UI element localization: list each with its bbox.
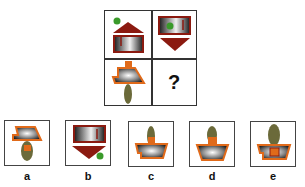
grid-cell-bottom-left (105, 59, 151, 106)
option-d-label: d (189, 170, 235, 182)
option-d-figure-icon (190, 122, 236, 168)
option-a[interactable] (4, 120, 50, 166)
option-e[interactable] (250, 121, 296, 167)
option-b-label: b (65, 170, 111, 182)
option-c-label: c (128, 170, 174, 182)
option-b-figure-icon (66, 121, 112, 167)
trapezoid-stem-figure-icon (105, 59, 151, 106)
option-d[interactable] (189, 121, 235, 167)
option-e-figure-icon (251, 122, 297, 168)
grid-cell-top-left (105, 11, 151, 58)
question-mark: ? (168, 71, 180, 94)
option-b[interactable] (65, 120, 111, 166)
grid-cell-bottom-right: ? (152, 59, 198, 106)
option-c[interactable] (128, 121, 174, 167)
grid-cell-top-right (152, 11, 198, 58)
option-e-label: e (250, 170, 296, 182)
box-triangle-figure-icon (152, 11, 198, 58)
option-a-figure-icon (5, 121, 51, 167)
house-figure-icon (105, 11, 151, 58)
option-c-figure-icon (129, 122, 175, 168)
option-a-label: a (4, 170, 50, 182)
puzzle-grid: ? (104, 10, 197, 106)
